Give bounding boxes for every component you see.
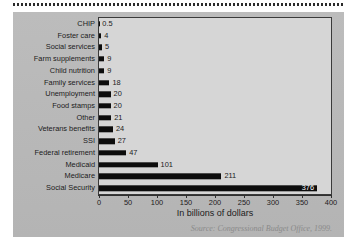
value-label: 211 (224, 173, 236, 180)
bar (99, 150, 126, 155)
bar-row: Food stamps20 (99, 100, 331, 111)
source-note: Source: Congressional Budget Office, 199… (98, 224, 332, 233)
value-label: 27 (118, 137, 126, 144)
category-label: Family services (44, 79, 95, 86)
bar (99, 103, 111, 108)
category-label: Federal retirement (35, 149, 95, 156)
bar-row: SSI27 (99, 136, 331, 147)
category-label: Farm supplements (34, 55, 95, 62)
x-tick-label: 50 (124, 199, 132, 206)
category-label: Medicare (65, 173, 95, 180)
x-tick-label: 200 (209, 199, 221, 206)
category-label: Food stamps (52, 102, 95, 109)
x-axis: 050100150200250300350400 (98, 195, 332, 196)
value-label: 9 (107, 55, 111, 62)
bar-row: Child nutrition9 (99, 65, 331, 76)
value-label: 4 (104, 32, 108, 39)
category-label: Child nutrition (50, 67, 95, 74)
bar (99, 45, 102, 50)
category-label: Foster care (58, 32, 95, 39)
category-label: Social Security (46, 184, 95, 191)
bar-row: Social services5 (99, 42, 331, 53)
category-label: Other (77, 114, 95, 121)
x-tick-label: 400 (325, 199, 337, 206)
bars-layer: CHIP0.5Foster care4Social services5Farm … (99, 18, 331, 194)
x-tick-label: 350 (296, 199, 308, 206)
chart-figure: CHIP0.5Foster care4Social services5Farm … (0, 0, 361, 251)
bar-row: Other21 (99, 112, 331, 123)
value-label: 20 (114, 102, 122, 109)
bar (99, 185, 317, 190)
value-label: 5 (105, 44, 109, 51)
chart-card: CHIP0.5Foster care4Social services5Farm … (13, 12, 344, 237)
x-tick-label: 250 (238, 199, 250, 206)
x-tick-label: 100 (151, 199, 163, 206)
bar-row: Veterans benefits24 (99, 124, 331, 135)
bar (99, 174, 221, 179)
value-label: 20 (114, 91, 122, 98)
bar (99, 138, 115, 143)
plot-area: CHIP0.5Foster care4Social services5Farm … (98, 17, 332, 195)
category-label: Veterans benefits (38, 126, 95, 133)
bar-row: Social Security376 (99, 183, 331, 194)
dotted-divider (13, 3, 344, 6)
value-label: 0.5 (102, 20, 112, 27)
value-label: 101 (161, 161, 173, 168)
bar (99, 33, 101, 38)
bar-row: Foster care4 (99, 30, 331, 41)
bar (99, 115, 111, 120)
bar-row: Family services18 (99, 77, 331, 88)
value-label: 376 (302, 184, 314, 191)
bar-row: Federal retirement47 (99, 147, 331, 158)
category-label: SSI (83, 137, 95, 144)
bar (99, 162, 158, 167)
category-label: Unemployment (45, 91, 95, 98)
bar-row: Medicaid101 (99, 159, 331, 170)
value-label: 47 (129, 149, 137, 156)
bar-row: CHIP0.5 (99, 18, 331, 29)
value-label: 9 (107, 67, 111, 74)
value-label: 24 (116, 126, 124, 133)
category-label: CHIP (77, 20, 95, 27)
bar (99, 127, 113, 132)
bar-row: Unemployment20 (99, 89, 331, 100)
bar-row: Farm supplements9 (99, 53, 331, 64)
value-label: 21 (114, 114, 122, 121)
x-tick-label: 0 (97, 199, 101, 206)
bar (99, 56, 104, 61)
x-axis-title: In billions of dollars (98, 208, 332, 218)
category-label: Medicaid (65, 161, 95, 168)
bar (99, 92, 111, 97)
x-tick-label: 150 (180, 199, 192, 206)
category-label: Social services (46, 44, 95, 51)
x-tick-label: 300 (267, 199, 279, 206)
bar (99, 80, 109, 85)
value-label: 18 (112, 79, 120, 86)
bar (99, 68, 104, 73)
bar-row: Medicare211 (99, 171, 331, 182)
